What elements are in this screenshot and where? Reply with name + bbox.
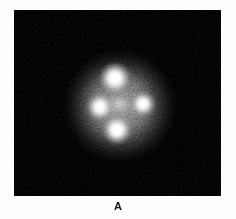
source-image-a-top xyxy=(100,63,129,92)
core-image-b-left xyxy=(95,102,106,113)
core-image-a-top xyxy=(109,72,121,84)
source-central-source xyxy=(105,95,134,113)
source-image-d-bottom xyxy=(103,116,130,143)
source-image-c-right xyxy=(131,92,154,115)
inner-halo-glow xyxy=(82,68,156,142)
source-image-b-left xyxy=(87,94,112,119)
film-grain-texture xyxy=(14,10,221,196)
outer-halo-glow xyxy=(66,52,174,160)
speckle-texture xyxy=(62,48,178,164)
core-image-d-bottom xyxy=(111,124,122,135)
panel-edge-shading xyxy=(14,10,221,196)
figure-root: A xyxy=(0,0,236,219)
astronomical-image-panel xyxy=(14,10,221,196)
panel-caption-label: A xyxy=(0,200,236,212)
core-image-c-right xyxy=(138,99,148,109)
